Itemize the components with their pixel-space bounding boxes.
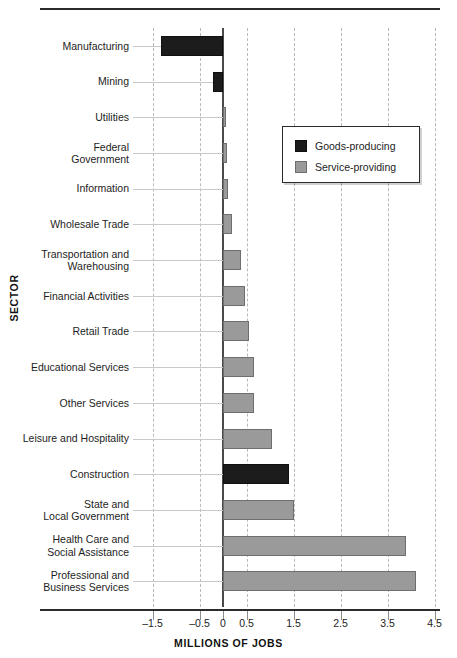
bar <box>223 321 249 341</box>
bar <box>223 429 272 449</box>
leader-line <box>133 367 223 368</box>
category-label: Information <box>76 171 129 207</box>
leader-line <box>133 260 223 261</box>
category-label: Utilities <box>95 99 129 135</box>
chart-row: Mining <box>0 64 457 100</box>
x-axis-tick-label: –0.5 <box>189 617 209 629</box>
bar <box>223 393 254 413</box>
chart-legend: Goods-producing Service-providing <box>282 126 420 183</box>
category-label: Wholesale Trade <box>50 207 129 243</box>
category-label: Retail Trade <box>72 314 129 350</box>
x-axis-title: MILLIONS OF JOBS <box>0 637 457 649</box>
leader-line <box>133 82 213 83</box>
leader-line <box>133 46 161 47</box>
category-label: Professional and Business Services <box>43 564 129 600</box>
category-label: Construction <box>70 456 129 492</box>
bar <box>223 500 294 520</box>
category-label: Transportation and Warehousing <box>41 242 129 278</box>
x-axis-tick-label: –1.5 <box>142 617 162 629</box>
legend-item-goods-producing: Goods-producing <box>295 135 419 156</box>
bar <box>223 286 245 306</box>
leader-line <box>133 546 223 547</box>
leader-line <box>133 224 223 225</box>
chart-row: Professional and Business Services <box>0 564 457 600</box>
category-label: Mining <box>98 64 129 100</box>
y-axis-title: SECTOR <box>8 268 20 328</box>
leader-line <box>133 117 223 118</box>
category-label: Health Care and Social Assistance <box>47 528 129 564</box>
chart-row: Other Services <box>0 385 457 421</box>
bar <box>223 536 406 556</box>
bar <box>213 72 223 92</box>
bar <box>161 36 223 56</box>
bar <box>223 464 289 484</box>
category-label: Leisure and Hospitality <box>23 421 129 457</box>
legend-item-service-providing: Service-providing <box>295 156 419 177</box>
plot-area: ManufacturingMiningUtilitiesFederal Gove… <box>0 0 457 658</box>
legend-swatch-goods-producing <box>295 140 307 152</box>
chart-row: Educational Services <box>0 349 457 385</box>
chart-row: Wholesale Trade <box>0 207 457 243</box>
x-axis-tick-label: 4.5 <box>427 617 442 629</box>
bar <box>223 143 227 163</box>
category-label: Financial Activities <box>43 278 129 314</box>
jobs-by-sector-chart: ManufacturingMiningUtilitiesFederal Gove… <box>0 0 457 658</box>
chart-row: Transportation and Warehousing <box>0 242 457 278</box>
category-label: Federal Government <box>71 135 129 171</box>
legend-swatch-service-providing <box>295 161 307 173</box>
leader-line <box>133 403 223 404</box>
chart-row: Health Care and Social Assistance <box>0 528 457 564</box>
category-label: Educational Services <box>31 349 129 385</box>
x-axis-tick-label: 0 <box>220 617 226 629</box>
chart-row: Retail Trade <box>0 314 457 350</box>
chart-row: Financial Activities <box>0 278 457 314</box>
bar <box>223 250 241 270</box>
bar <box>223 179 228 199</box>
leader-line <box>133 153 223 154</box>
category-label: Other Services <box>60 385 129 421</box>
chart-row: State and Local Government <box>0 492 457 528</box>
chart-row: Leisure and Hospitality <box>0 421 457 457</box>
x-axis-tick-label: 2.5 <box>333 617 348 629</box>
leader-line <box>133 331 223 332</box>
category-label: State and Local Government <box>43 492 129 528</box>
chart-row: Construction <box>0 456 457 492</box>
bar <box>223 357 254 377</box>
leader-line <box>133 439 223 440</box>
bar <box>223 107 226 127</box>
x-axis-tick-label: 1.5 <box>286 617 301 629</box>
bar <box>223 214 232 234</box>
leader-line <box>133 189 223 190</box>
legend-label-goods-producing: Goods-producing <box>315 140 396 152</box>
leader-line <box>133 581 223 582</box>
leader-line <box>133 510 223 511</box>
x-axis-tick-label: 3.5 <box>380 617 395 629</box>
legend-label-service-providing: Service-providing <box>315 161 396 173</box>
category-label: Manufacturing <box>62 28 129 64</box>
leader-line <box>133 474 223 475</box>
leader-line <box>133 296 223 297</box>
x-axis-tick-label: 0.5 <box>239 617 254 629</box>
bar <box>223 571 416 591</box>
chart-row: Manufacturing <box>0 28 457 64</box>
